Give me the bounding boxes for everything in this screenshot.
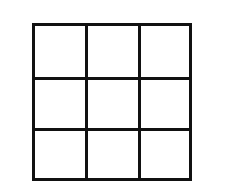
cell-r3-c1[interactable]	[35, 131, 85, 178]
cell-r1-c3[interactable]	[141, 26, 189, 77]
cell-r1-c1[interactable]	[35, 26, 85, 77]
cell-r3-c2[interactable]	[88, 131, 138, 178]
cell-r2-c2[interactable]	[88, 80, 138, 128]
cell-r3-c3[interactable]	[141, 131, 189, 178]
tic-tac-toe-grid	[32, 23, 192, 181]
cell-r1-c2[interactable]	[88, 26, 138, 77]
cell-r2-c1[interactable]	[35, 80, 85, 128]
cell-r2-c3[interactable]	[141, 80, 189, 128]
